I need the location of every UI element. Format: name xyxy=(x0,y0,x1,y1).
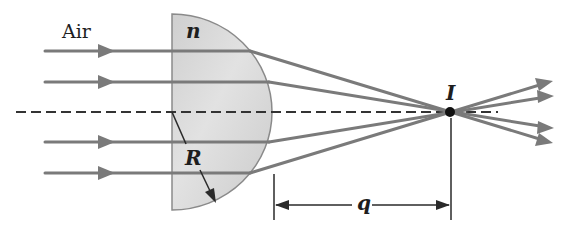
image-distance-label: q xyxy=(357,191,371,215)
image-point-label: I xyxy=(445,81,456,105)
medium-label: Air xyxy=(61,20,92,42)
arrow-down-right-icon xyxy=(535,133,553,146)
arrow-right-icon xyxy=(98,135,115,149)
arrow-right-icon xyxy=(537,121,554,134)
q-arrow-left-icon xyxy=(275,200,289,210)
radius-label: R xyxy=(184,146,202,170)
arrow-right-icon xyxy=(98,166,115,180)
outgoing-arrowheads xyxy=(535,78,554,146)
q-arrow-right-icon xyxy=(436,200,450,210)
arrow-right-icon xyxy=(98,75,115,89)
refractive-index-label: n xyxy=(186,19,201,43)
image-point-dot xyxy=(445,107,455,117)
lens-diagram: Air n R I q xyxy=(0,0,568,239)
arrow-up-right-icon xyxy=(535,78,553,91)
arrow-right-icon xyxy=(537,90,554,103)
arrow-right-icon xyxy=(98,44,115,58)
